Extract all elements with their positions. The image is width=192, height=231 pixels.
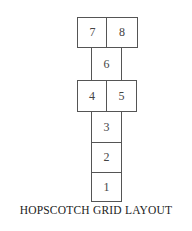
square-3: 3	[91, 111, 122, 143]
square-6: 6	[91, 47, 122, 81]
square-label: 1	[104, 180, 110, 195]
square-label: 8	[119, 25, 125, 40]
square-8: 8	[106, 17, 138, 48]
square-label: 6	[104, 57, 110, 72]
diagram-title: HOPSCOTCH GRID LAYOUT	[0, 204, 192, 216]
square-1: 1	[91, 172, 122, 202]
square-2: 2	[91, 142, 122, 173]
square-label: 5	[119, 89, 125, 104]
square-label: 4	[89, 89, 95, 104]
square-7: 7	[77, 17, 108, 48]
square-label: 2	[104, 150, 110, 165]
square-5: 5	[106, 80, 137, 112]
square-label: 3	[104, 120, 110, 135]
square-label: 7	[90, 25, 96, 40]
square-4: 4	[77, 80, 107, 112]
